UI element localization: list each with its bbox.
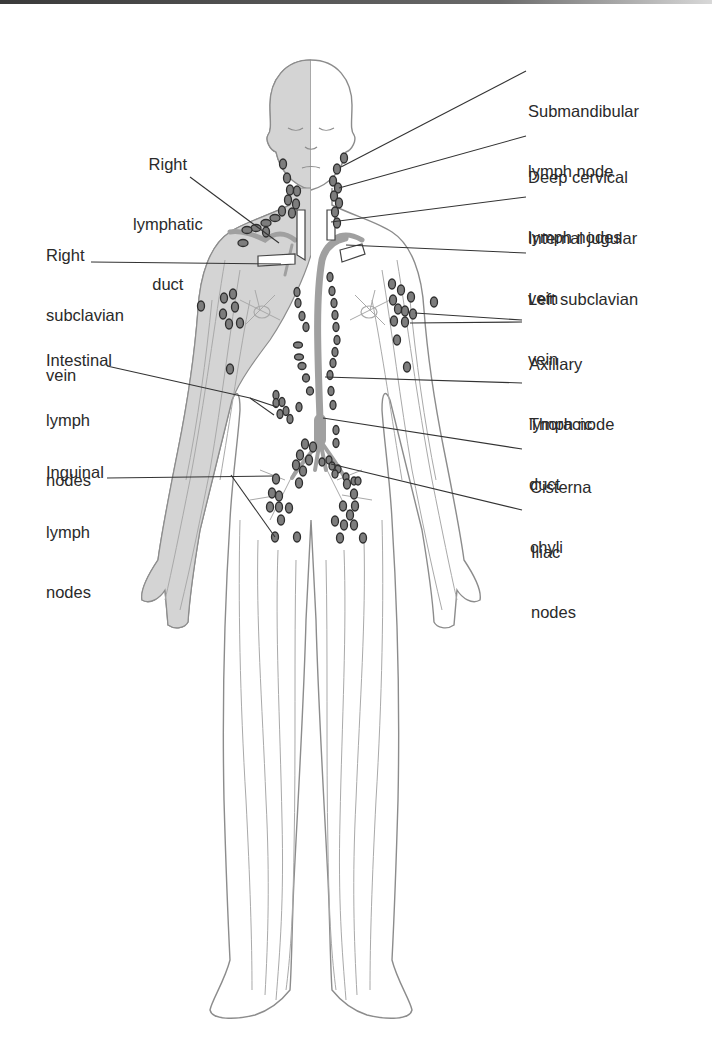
label-right-lymphatic-duct: Right lymphatic duct	[133, 114, 203, 314]
left-subclavian-vein-tube	[340, 244, 365, 262]
right-internal-jugular-vein	[297, 210, 305, 260]
label-iliac-nodes: Iliac nodes	[531, 502, 576, 642]
label-inguinal-lymph-nodes: Inguinal lymph nodes	[46, 422, 104, 622]
